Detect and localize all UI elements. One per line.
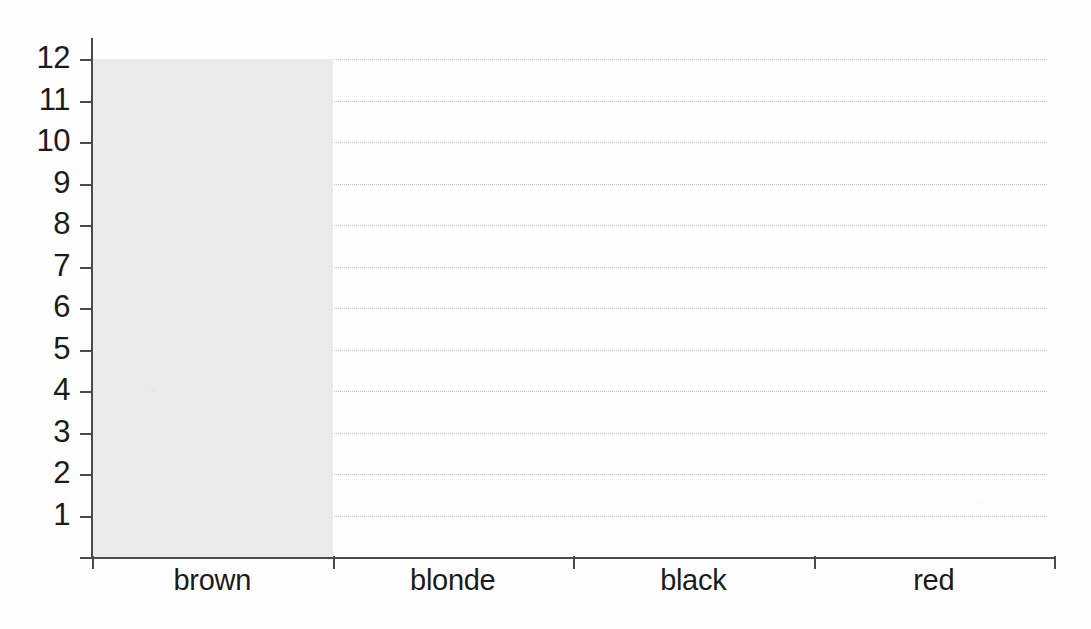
y-tick-1 [80,516,93,518]
y-tick-label-8: 8 [8,208,70,239]
y-tick-12 [80,59,93,61]
y-tick-3 [80,433,93,435]
x-axis-label-black: black [573,563,814,597]
y-tick-label-1: 1 [8,499,70,530]
bar-brown [92,59,333,557]
y-tick-5 [80,350,93,352]
y-tick-label-4: 4 [8,374,70,405]
y-tick-11 [80,101,93,103]
y-tick-6 [80,308,93,310]
x-axis-label-brown: brown [92,563,333,597]
x-axis-label-blonde: blonde [333,563,574,597]
y-tick-label-2: 2 [8,457,70,488]
y-tick-10 [80,142,93,144]
y-tick-label-5: 5 [8,333,70,364]
y-tick-7 [80,267,93,269]
y-axis-line [91,38,93,559]
y-tick-8 [80,225,93,227]
y-tick-label-3: 3 [8,416,70,447]
x-axis-label-red: red [814,563,1055,597]
y-tick-label-12: 12 [8,42,70,73]
y-tick-label-9: 9 [8,167,70,198]
y-tick-label-10: 10 [8,125,70,156]
y-tick-2 [80,474,93,476]
y-tick-label-6: 6 [8,291,70,322]
plot-area [92,38,1054,558]
x-tick-4 [1054,556,1056,569]
bar-chart: 123456789101112 brownblondeblackred [0,0,1091,629]
y-tick-label-7: 7 [8,250,70,281]
y-tick-4 [80,391,93,393]
y-tick-label-11: 11 [8,84,70,115]
y-tick-9 [80,184,93,186]
